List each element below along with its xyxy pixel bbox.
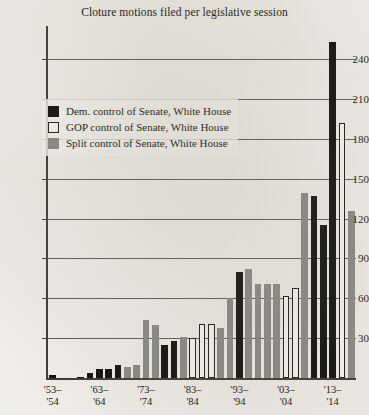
x-axis-line [46, 378, 356, 380]
legend-swatch-gop-icon [48, 122, 59, 133]
legend-label-split: Split control of Senate, White House [66, 137, 228, 149]
bar-dem [161, 345, 168, 378]
x-tick-label: '13–'14 [313, 384, 353, 407]
legend-label-dem: Dem. control of Senate, White House [66, 105, 231, 117]
x-tick-label-line1: '03– [277, 384, 295, 395]
x-tick-label-line1: '83– [184, 384, 202, 395]
y-tick-mark [42, 338, 47, 339]
bar-split [217, 328, 224, 378]
x-tick-label-line1: '13– [324, 384, 342, 395]
bar-dem [105, 369, 112, 378]
y-axis-line [46, 26, 48, 380]
chart-legend: Dem. control of Senate, White House GOP … [42, 99, 238, 156]
bar-split [180, 337, 187, 378]
x-tick-label-line2: '74 [126, 396, 166, 408]
x-tick-label-line1: '53– [44, 384, 62, 395]
x-tick-label: '63–'64 [79, 384, 119, 407]
bar-dem [329, 42, 336, 378]
x-tick-label-line2: '04 [266, 396, 306, 408]
legend-label-gop: GOP control of Senate, White House [66, 121, 229, 133]
y-tick-mark [42, 59, 47, 60]
bar-split [301, 193, 308, 378]
y-tick-label: 30 [327, 333, 369, 344]
x-tick-label-line2: '14 [313, 396, 353, 408]
bar-gop [189, 338, 196, 378]
x-tick-label: '93–'94 [219, 384, 259, 407]
bars-layer [48, 26, 356, 378]
bar-dem [96, 369, 103, 378]
x-tick-label-line1: '63– [91, 384, 109, 395]
x-tick-label-line2: '64 [79, 396, 119, 408]
y-tick-label: 90 [327, 253, 369, 264]
y-tick-label: 240 [327, 54, 369, 65]
bar-gop [292, 288, 299, 378]
bar-gop [283, 296, 290, 378]
bar-dem [171, 341, 178, 378]
bar-dem [236, 272, 243, 378]
y-tick-label: 60 [327, 293, 369, 304]
x-tick-label: '83–'84 [173, 384, 213, 407]
bar-split [227, 298, 234, 378]
legend-item-gop: GOP control of Senate, White House [48, 119, 231, 135]
x-tick-label-line2: '94 [219, 396, 259, 408]
legend-item-split: Split control of Senate, White House [48, 135, 231, 151]
y-tick-mark [42, 258, 47, 259]
plot-area [48, 26, 356, 378]
bar-dem [115, 365, 122, 378]
bar-dem [311, 196, 318, 378]
legend-swatch-split-icon [48, 138, 59, 149]
bar-split [152, 325, 159, 378]
x-tick-label-line1: '93– [231, 384, 249, 395]
y-tick-mark [42, 298, 47, 299]
x-tick-label: '73–'74 [126, 384, 166, 407]
bar-split [245, 269, 252, 378]
bar-split [255, 284, 262, 378]
bar-split [133, 365, 140, 378]
y-tick-mark [42, 179, 47, 180]
chart-title: Cloture motions filed per legislative se… [0, 6, 369, 18]
bar-split [143, 320, 150, 378]
bar-dem [320, 225, 327, 378]
legend-item-dem: Dem. control of Senate, White House [48, 103, 231, 119]
y-tick-label: 210 [327, 94, 369, 105]
x-tick-label-line2: '84 [173, 396, 213, 408]
bar-gop [208, 324, 215, 378]
y-tick-label: 180 [327, 134, 369, 145]
x-tick-label: '53–'54 [33, 384, 73, 407]
x-tick-label-line2: '54 [33, 396, 73, 408]
bar-split [124, 367, 131, 378]
bar-split [264, 284, 271, 378]
x-tick-label: '03–'04 [266, 384, 306, 407]
legend-swatch-dem-icon [48, 106, 59, 117]
y-tick-label: 150 [327, 174, 369, 185]
y-tick-label: 120 [327, 214, 369, 225]
y-tick-mark [42, 219, 47, 220]
x-tick-label-line1: '73– [137, 384, 155, 395]
bar-gop [199, 324, 206, 378]
bar-split [273, 284, 280, 378]
